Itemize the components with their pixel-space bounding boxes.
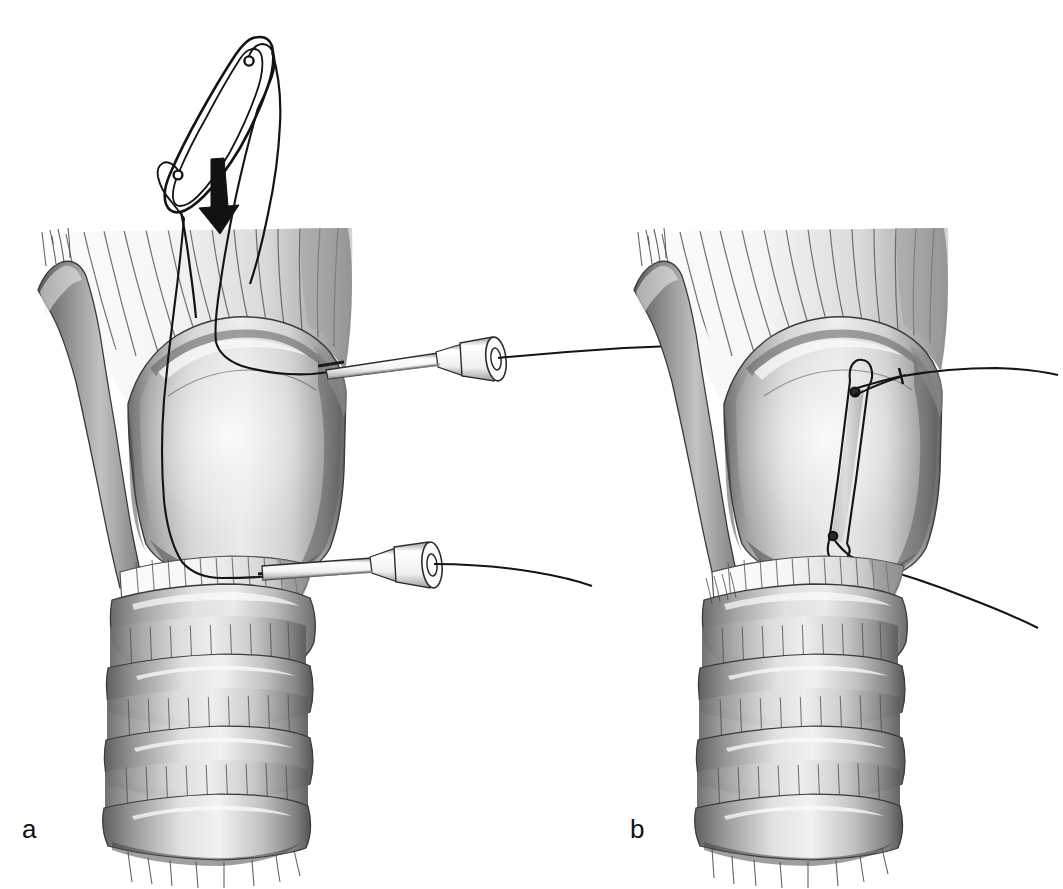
figure-root: a [0,0,1063,889]
laryngeal-suture-figure: a [0,0,1063,889]
suture-hole-lower-a [174,171,183,180]
suture-hole-lower-b [829,532,837,540]
thyroid-cartilage-b [724,317,943,583]
suture-hole-upper-a [244,56,253,65]
panel-label-b: b [630,814,644,844]
thyroid-cartilage-a [128,317,347,583]
panel-label-a: a [22,814,37,844]
tracheal-rings-b [695,616,905,888]
tracheal-rings-a [103,616,313,888]
